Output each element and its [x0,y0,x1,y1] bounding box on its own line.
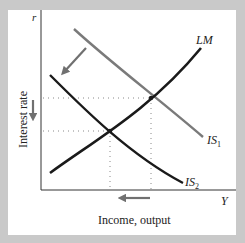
lm-label: LM [195,33,214,47]
y-axis-title: Interest rate [16,91,30,148]
equilibrium-new [108,129,112,133]
is2-label-sub: 2 [195,182,199,191]
is2-curve [50,75,183,183]
is1-label-main: IS [206,133,217,147]
is1-label: IS1 [206,133,221,149]
y-axis-symbol: r [32,11,37,23]
is1-label-sub: 1 [217,140,221,149]
is2-label-main: IS [184,175,195,189]
lm-curve [50,48,201,173]
x-axis-symbol: Y [221,194,229,208]
is-lm-diagram: r Y Income, output Interest rate LM IS1 … [0,0,245,243]
is1-curve [74,29,203,137]
is2-label: IS2 [184,175,199,191]
is-shift-arrow [64,48,86,72]
x-axis-title: Income, output [98,213,171,227]
equilibrium-initial [149,96,153,100]
